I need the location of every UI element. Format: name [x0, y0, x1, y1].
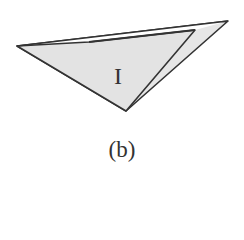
figure-caption: (b) — [0, 138, 244, 161]
region-label: I — [114, 64, 122, 88]
